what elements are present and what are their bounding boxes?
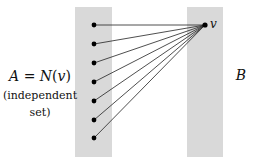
bipartite-diagram: v A = N(v) (independent set) B bbox=[0, 0, 256, 163]
set-a-caption-line1: (independent bbox=[3, 89, 78, 102]
vertex-a-3 bbox=[92, 61, 97, 66]
set-a-caption-line2: set) bbox=[30, 106, 51, 119]
set-a-label: A = N(v) bbox=[7, 68, 71, 84]
vertex-a-4 bbox=[92, 80, 97, 85]
set-b-label: B bbox=[235, 67, 246, 83]
vertex-a-7 bbox=[92, 136, 97, 141]
vertex-a-1 bbox=[92, 23, 97, 28]
vertex-a-5 bbox=[92, 99, 97, 104]
vertex-a-2 bbox=[92, 42, 97, 47]
vertex-v bbox=[202, 22, 207, 27]
vertex-v-label: v bbox=[210, 17, 217, 31]
vertex-a-6 bbox=[92, 118, 97, 123]
